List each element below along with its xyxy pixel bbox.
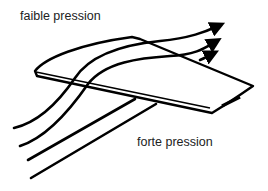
streamline-3 bbox=[28, 99, 135, 160]
wing-body bbox=[35, 37, 253, 113]
wing-airflow-diagram: faible pression forte pression bbox=[0, 0, 268, 191]
wing bbox=[35, 37, 253, 113]
high-pressure-label: forte pression bbox=[137, 136, 213, 149]
diagram-graphic bbox=[0, 0, 268, 191]
streamline-3-exit bbox=[200, 54, 212, 60]
low-pressure-label: faible pression bbox=[20, 10, 101, 23]
